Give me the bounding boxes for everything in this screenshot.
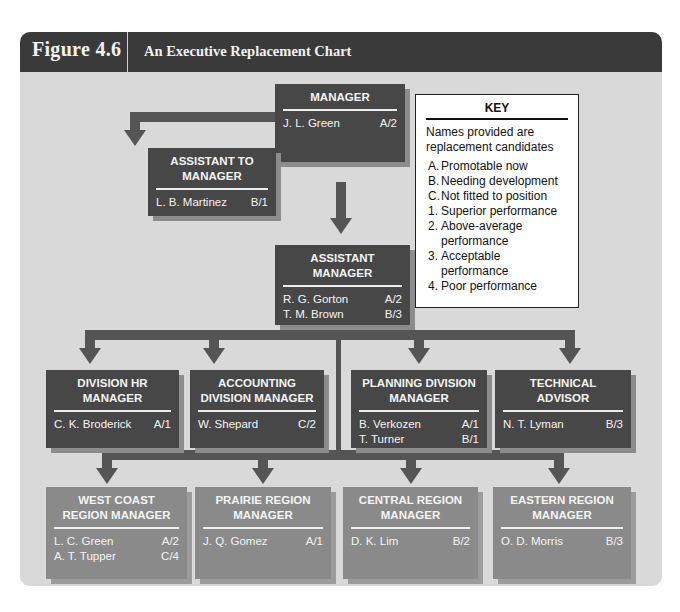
chart-canvas: MANAGER J. L. Green A/2 ASSISTANT TO MAN… [20, 72, 662, 586]
candidate-row: W. Shepard C/2 [198, 417, 316, 432]
candidate-row: L. B. Martinez B/1 [156, 195, 268, 210]
position-box-central-region-manager: CENTRAL REGION MANAGER D. K. Lim B/2 [343, 487, 478, 579]
candidate-rating: C/2 [298, 417, 316, 432]
position-title: EASTERN REGION MANAGER [501, 493, 623, 523]
candidate-rating: C/4 [161, 549, 179, 564]
key-label: Not fitted to position [441, 189, 547, 204]
position-box-assistant-manager: ASSISTANT MANAGER R. G. Gorton A/2 T. M.… [275, 245, 410, 325]
key-code: 4. [428, 279, 441, 294]
candidate-row: J. Q. Gomez A/1 [203, 534, 323, 549]
key-label: Above-average performance [441, 219, 568, 249]
divider [283, 285, 402, 287]
key-code: C. [428, 189, 441, 204]
divider [351, 527, 470, 529]
candidate-name: J. Q. Gomez [203, 534, 268, 549]
candidate-row: J. L. Green A/2 [283, 116, 397, 131]
connector-line [85, 330, 575, 340]
candidate-name: W. Shepard [198, 417, 258, 432]
divider [283, 109, 397, 111]
divider [198, 410, 316, 412]
candidate-name: B. Verkozen [359, 417, 421, 432]
candidate-rating: A/2 [162, 534, 179, 549]
candidate-rating: B/2 [453, 534, 470, 549]
key-item: 2.Above-average performance [426, 219, 568, 249]
divider [203, 527, 323, 529]
arrow-down-icon [330, 218, 352, 234]
candidate-name: A. T. Tupper [54, 549, 116, 564]
arrow-down-icon [548, 468, 570, 484]
position-box-technical-advisor: TECHNICAL ADVISOR N. T. Lyman B/3 [495, 370, 631, 448]
candidate-row: D. K. Lim B/2 [351, 534, 470, 549]
key-item: A.Promotable now [426, 159, 568, 174]
candidate-rating: B/1 [251, 195, 268, 210]
candidate-rating: A/2 [380, 116, 397, 131]
candidate-rating: B/3 [606, 417, 623, 432]
arrow-down-icon [203, 348, 225, 364]
key-code: A. [428, 159, 441, 174]
candidate-name: O. D. Morris [501, 534, 563, 549]
position-title: CENTRAL REGION MANAGER [351, 493, 470, 523]
candidate-name: J. L. Green [283, 116, 340, 131]
arrow-down-icon [124, 130, 146, 146]
executive-replacement-chart-figure: Figure 4.6 An Executive Replacement Char… [20, 32, 662, 586]
key-item: 1.Superior performance [426, 204, 568, 219]
divider [503, 410, 623, 412]
key-item: 3.Acceptable performance [426, 249, 568, 279]
figure-title: An Executive Replacement Chart [144, 43, 351, 60]
candidate-row: T. M. Brown B/3 [283, 307, 402, 322]
candidate-name: D. K. Lim [351, 534, 398, 549]
candidate-name: C. K. Broderick [54, 417, 131, 432]
position-box-manager: MANAGER J. L. Green A/2 [275, 84, 405, 162]
key-code: 3. [428, 249, 441, 279]
connector-line [102, 450, 564, 460]
position-title: PLANNING DIVISION MANAGER [359, 376, 479, 406]
candidate-name: R. G. Gorton [283, 292, 348, 307]
candidate-rating: B/3 [606, 534, 623, 549]
key-code: B. [428, 174, 441, 189]
arrow-down-icon [252, 468, 274, 484]
arrow-down-icon [559, 348, 581, 364]
key-label: Acceptable performance [441, 249, 568, 279]
key-label: Needing development [441, 174, 558, 189]
position-box-accounting-division-manager: ACCOUNTING DIVISION MANAGER W. Shepard C… [190, 370, 324, 448]
position-title: WEST COAST REGION MANAGER [54, 493, 179, 523]
candidate-row: B. Verkozen A/1 [359, 417, 479, 432]
candidate-rating: A/1 [306, 534, 323, 549]
candidate-rating: B/3 [385, 307, 402, 322]
arrow-down-icon [96, 468, 118, 484]
arrow-down-icon [79, 348, 101, 364]
candidate-row: A. T. Tupper C/4 [54, 549, 179, 564]
position-box-eastern-region-manager: EASTERN REGION MANAGER O. D. Morris B/3 [493, 487, 631, 579]
header-divider [127, 32, 128, 72]
position-title: TECHNICAL ADVISOR [503, 376, 623, 406]
key-code: 1. [428, 204, 441, 219]
divider [501, 527, 623, 529]
divider [54, 527, 179, 529]
divider [54, 410, 171, 412]
position-title: ASSISTANT TO MANAGER [156, 154, 268, 184]
key-item: B.Needing development [426, 174, 568, 189]
arrow-down-icon [400, 468, 422, 484]
candidate-rating: A/1 [462, 417, 479, 432]
divider [156, 188, 268, 190]
key-code: 2. [428, 219, 441, 249]
connector-line [130, 112, 275, 122]
candidate-row: O. D. Morris B/3 [501, 534, 623, 549]
position-box-west-coast-region-manager: WEST COAST REGION MANAGER L. C. Green A/… [46, 487, 187, 579]
figure-number: Figure 4.6 [32, 38, 121, 61]
candidate-row: N. T. Lyman B/3 [503, 417, 623, 432]
position-box-assistant-to-manager: ASSISTANT TO MANAGER L. B. Martinez B/1 [148, 148, 276, 216]
candidate-name: N. T. Lyman [503, 417, 564, 432]
key-title: KEY [426, 101, 568, 115]
candidate-name: T. M. Brown [283, 307, 344, 322]
candidate-row: L. C. Green A/2 [54, 534, 179, 549]
position-title: ACCOUNTING DIVISION MANAGER [198, 376, 316, 406]
position-title: DIVISION HR MANAGER [54, 376, 171, 406]
candidate-name: T. Turner [359, 432, 404, 447]
candidate-rating: A/1 [154, 417, 171, 432]
position-box-division-hr-manager: DIVISION HR MANAGER C. K. Broderick A/1 [46, 370, 179, 448]
position-box-prairie-region-manager: PRAIRIE REGION MANAGER J. Q. Gomez A/1 [195, 487, 331, 579]
candidate-rating: B/1 [462, 432, 479, 447]
connector-line [336, 322, 341, 456]
position-title: ASSISTANT MANAGER [283, 251, 402, 281]
